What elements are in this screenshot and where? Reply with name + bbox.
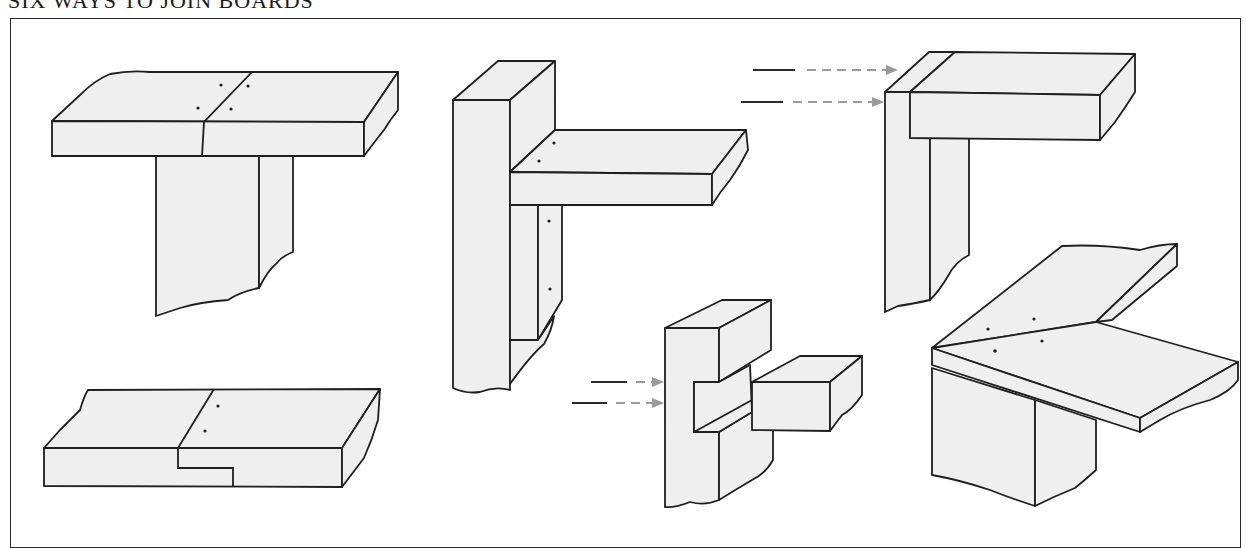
joint-butt-tee — [52, 71, 398, 316]
nail-arrow-upper — [753, 65, 898, 75]
nail-arrow-lower — [741, 97, 884, 107]
nail-arrow-lower — [572, 398, 664, 408]
nail-arrow-upper — [591, 377, 664, 387]
joint-miter — [932, 244, 1238, 506]
joint-rabbet-splice — [44, 389, 380, 487]
joint-dado-notch — [572, 300, 862, 507]
